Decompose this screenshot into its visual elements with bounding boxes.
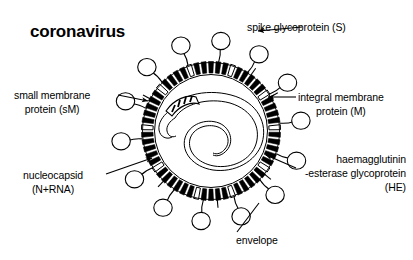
page-title: coronavirus xyxy=(30,22,125,42)
label-nuc-line1: nucleocapsid xyxy=(23,168,83,182)
spike-head xyxy=(172,37,190,54)
label-env-line1: envelope xyxy=(236,233,278,247)
integral-membrane-protein-bar xyxy=(269,132,281,137)
label-he-line1: haemagglutinin xyxy=(243,152,406,166)
spike-head xyxy=(138,59,156,76)
label-he-line2: -esterase glycoprotein xyxy=(243,166,406,180)
label-small-membrane-protein: small membrane protein (sM) xyxy=(14,88,90,116)
small-membrane-protein-bar xyxy=(142,125,154,130)
spike-head xyxy=(278,74,296,91)
label-sm-line1: small membrane xyxy=(14,88,90,102)
spike-head xyxy=(192,212,210,229)
spike-head xyxy=(250,46,268,63)
integral-membrane-protein-bar xyxy=(209,189,214,201)
label-haemagglutinin-esterase: haemagglutinin -esterase glycoprotein (H… xyxy=(243,152,406,194)
integral-membrane-protein-bar xyxy=(209,62,214,74)
spike-head xyxy=(125,171,143,188)
spike-head xyxy=(154,199,172,216)
label-nuc-line2: (N+RNA) xyxy=(23,182,83,196)
small-membrane-protein-bar xyxy=(269,125,281,130)
label-nucleocapsid: nucleocapsid (N+RNA) xyxy=(23,168,83,196)
label-sm-line2: protein (sM) xyxy=(14,102,90,116)
spike-head xyxy=(112,133,130,150)
haemagglutinin-esterase-projection xyxy=(158,181,164,187)
haemagglutinin-esterase-projection xyxy=(251,68,256,75)
label-integral-membrane-protein: integral membrane protein (M) xyxy=(298,90,384,118)
label-he-line3: (HE) xyxy=(243,180,406,194)
label-m-line1: integral membrane xyxy=(298,90,384,104)
label-spike-line1: spike glycoprotein (S) xyxy=(247,20,346,34)
haemagglutinin-esterase-projection xyxy=(143,95,150,99)
coronavirus-diagram: coronavirus spike glycoprotein (S) integ… xyxy=(0,0,413,260)
label-envelope: envelope xyxy=(236,233,278,247)
spike-head xyxy=(212,32,230,49)
spike-head xyxy=(232,208,250,225)
integral-membrane-protein-bar xyxy=(142,132,154,137)
haemagglutinin-esterase-projection xyxy=(217,200,218,208)
label-spike-glycoprotein: spike glycoprotein (S) xyxy=(247,20,346,34)
nucleocapsid-terminal-cap xyxy=(166,96,199,116)
label-m-line2: protein (M) xyxy=(298,104,384,118)
